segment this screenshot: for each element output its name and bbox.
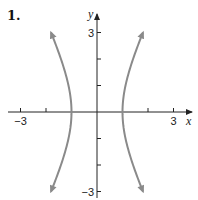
- y-axis-label: y: [87, 7, 94, 21]
- x-tick-label: −3: [14, 115, 27, 127]
- x-axis-label: x: [185, 114, 192, 128]
- problem-label: 1.: [7, 8, 21, 23]
- y-tick-label: 3: [88, 27, 94, 39]
- y-tick-label: −3: [81, 186, 94, 198]
- hyperbola-graph: 1. x y −333−3: [0, 0, 198, 200]
- axes: x y: [8, 7, 192, 198]
- x-tick-label: 3: [170, 115, 176, 127]
